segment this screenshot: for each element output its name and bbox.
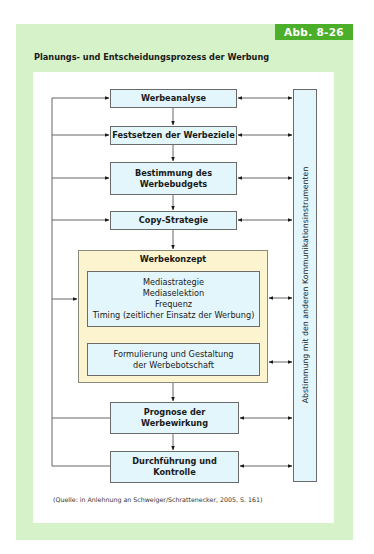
werbekonzept-botschaft-box: Formulierung und Gestaltung der Werbebot… xyxy=(87,343,260,376)
werbekonzept-title: Werbekonzept xyxy=(78,254,268,264)
step-durchfuehrung: Durchführung und Kontrolle xyxy=(110,451,239,483)
step-werbeziele: Festsetzen der Werbeziele xyxy=(110,126,237,145)
step-werbebudget: Bestimmung des Werbebudgets xyxy=(110,162,237,195)
media-line: Timing (zeitlicher Einsatz der Werbung) xyxy=(93,310,255,321)
media-line: Mediaselektion xyxy=(143,288,205,299)
botschaft-line: Formulierung und Gestaltung xyxy=(113,349,233,360)
media-line: Frequenz xyxy=(155,299,192,310)
werbekonzept-media-box: Mediastrategie Mediaselektion Frequenz T… xyxy=(87,271,260,327)
botschaft-line: der Werbebotschaft xyxy=(133,360,214,371)
source-note: (Quelle: in Anlehnung an Schweiger/Schra… xyxy=(53,496,263,503)
abstimmung-label: Abstimmung mit den anderen Kommunikation… xyxy=(301,167,310,404)
media-line: Mediastrategie xyxy=(143,277,204,288)
step-werbeanalyse: Werbeanalyse xyxy=(110,89,237,108)
step-prognose: Prognose der Werbewirkung xyxy=(110,402,239,434)
step-copy-strategie: Copy-Strategie xyxy=(110,211,237,230)
